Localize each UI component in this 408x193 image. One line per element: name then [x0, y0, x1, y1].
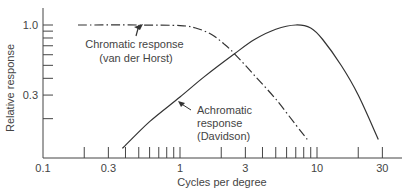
- y-axis-tick-labels: 0.31.0: [23, 19, 38, 101]
- chromatic-annotation-arrow: [134, 24, 143, 36]
- achromatic-annotation: Achromatic response (Davidson): [197, 104, 255, 142]
- x-tick-label: 3: [242, 162, 248, 174]
- x-axis-label: Cycles per degree: [177, 176, 266, 188]
- x-axis-tick-labels: 0.10.3131030: [35, 162, 388, 174]
- x-tick-label: 1: [177, 162, 183, 174]
- y-axis-ticks: [43, 25, 53, 119]
- x-tick-label: 30: [376, 162, 388, 174]
- y-tick-label: 0.3: [23, 89, 38, 101]
- x-tick-label: 0.3: [101, 162, 116, 174]
- x-tick-label: 0.1: [35, 162, 50, 174]
- x-axis-ticks: [84, 147, 382, 158]
- achromatic-annotation-arrow: [178, 101, 191, 110]
- spatial-frequency-response-chart: 0.10.3131030 0.31.0 Cycles per degree Re…: [0, 0, 408, 193]
- y-tick-label: 1.0: [23, 19, 38, 31]
- x-tick-label: 10: [311, 162, 323, 174]
- y-axis-label: Relative response: [4, 44, 16, 132]
- chromatic-annotation: Chromatic response (van der Horst): [85, 38, 187, 64]
